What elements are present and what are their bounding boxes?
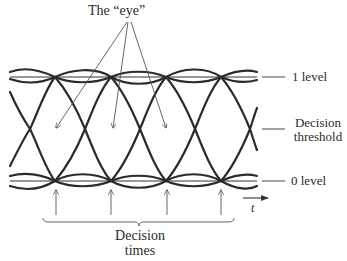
- eye-pointer-arrows: [56, 22, 166, 128]
- time-axis-label: t: [251, 201, 254, 215]
- trace-rise-2: [111, 77, 166, 181]
- trace-fall-2: [111, 77, 166, 181]
- trace-fall-4: [221, 77, 257, 150]
- trace-rise-3: [166, 77, 221, 181]
- trace-rise-4: [221, 108, 257, 181]
- threshold-label-line1: Decision: [289, 116, 347, 130]
- threshold-label-line2: threshold: [289, 130, 347, 144]
- trace-fall-1: [55, 77, 111, 181]
- decision-time-arrows: [56, 190, 221, 215]
- eye-label: The “eye”: [88, 4, 145, 18]
- trace-fall-3: [166, 77, 221, 181]
- trace-rise-1: [55, 77, 111, 181]
- eye-traces: [10, 69, 257, 189]
- one-level-label: 1 level: [292, 70, 327, 84]
- decision-times-line1: Decision: [104, 228, 176, 243]
- leader-lines: [262, 77, 285, 181]
- decision-times-brace: [43, 218, 234, 226]
- decision-times-line2: times: [104, 243, 176, 258]
- trace-rise-0: [10, 77, 55, 166]
- zero-level-label: 0 level: [291, 174, 326, 188]
- decision-times-label: Decision times: [104, 228, 176, 258]
- trace-fall-0: [10, 92, 55, 181]
- decision-threshold-label: Decision threshold: [289, 116, 347, 144]
